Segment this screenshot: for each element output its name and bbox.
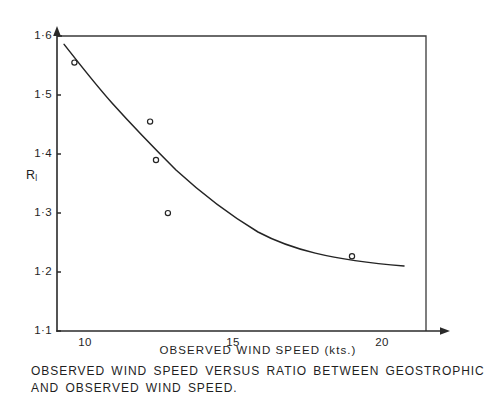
y-tick-label-1-2: 1·2 [22,265,52,277]
plot-frame-top-right [57,36,426,331]
y-tick-label-1-4: 1·4 [22,147,52,159]
data-point [349,254,354,259]
y-tick-label-1-3: 1·3 [22,206,52,218]
y-axis-title-text: R [26,168,35,182]
data-point [148,119,153,124]
x-axis-title: OBSERVED WIND SPEED (kts.) [0,344,492,356]
data-points-group [72,60,355,259]
fitted-curve [64,44,404,266]
data-point [165,211,170,216]
y-axis-arrow-icon [53,26,61,36]
caption-line-2: AND OBSERVED WIND SPEED. [31,380,486,397]
y-axis-title: Rl [26,168,37,183]
chart-plot-area [0,0,492,350]
data-point [72,60,77,65]
y-tick-label-1-1: 1·1 [22,324,52,336]
figure-container: 1·6 1·5 1·4 1·3 1·2 1·1 Rl 10 15 20 OBSE… [0,0,492,416]
data-point [153,157,158,162]
y-tick-label-1-6: 1·6 [22,29,52,41]
y-axis-title-subscript: l [35,173,37,183]
caption-line-1: OBSERVED WIND SPEED VERSUS RATIO BETWEEN… [31,363,486,380]
figure-caption: OBSERVED WIND SPEED VERSUS RATIO BETWEEN… [31,363,486,397]
y-tick-label-1-5: 1·5 [22,88,52,100]
x-axis-arrow-icon [440,327,450,335]
